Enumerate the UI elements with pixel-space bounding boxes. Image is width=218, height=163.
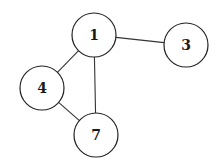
node-label: 3 bbox=[181, 37, 191, 53]
node-7: 7 bbox=[74, 113, 118, 157]
node-label: 7 bbox=[91, 127, 101, 143]
edge-1-7 bbox=[94, 57, 95, 113]
edge-1-3 bbox=[116, 37, 164, 42]
graph-diagram: 1347 bbox=[0, 0, 218, 163]
edge-4-7 bbox=[59, 102, 80, 120]
node-label: 1 bbox=[89, 27, 99, 43]
node-label: 4 bbox=[37, 80, 47, 96]
node-1: 1 bbox=[72, 13, 116, 57]
edge-1-4 bbox=[57, 51, 78, 73]
node-4: 4 bbox=[20, 66, 64, 110]
nodes: 1347 bbox=[20, 13, 208, 157]
node-3: 3 bbox=[164, 23, 208, 67]
